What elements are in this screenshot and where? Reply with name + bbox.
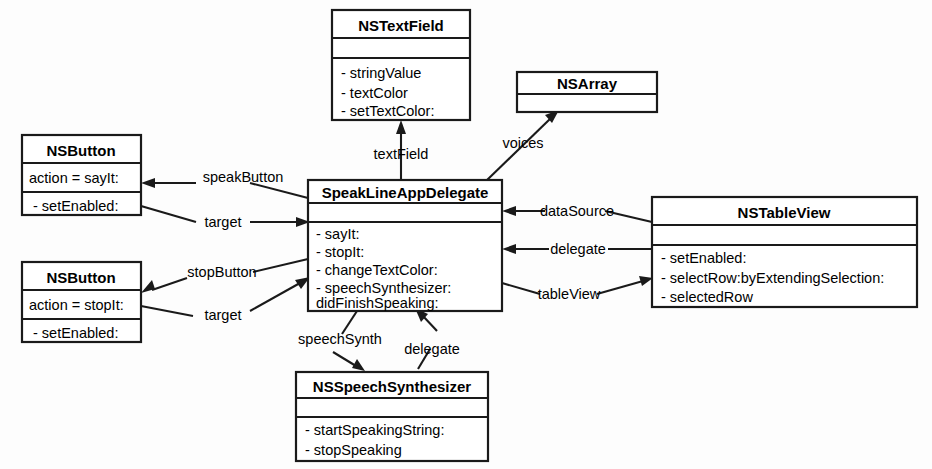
class-box-nstableview[interactable]: NSTableView - setEnabled: - selectRow:by… bbox=[652, 197, 917, 307]
connection-target-stop: target bbox=[141, 277, 310, 323]
class-box-nsbutton-stop[interactable]: NSButton action = stopIt: - setEnabled: bbox=[22, 262, 141, 342]
connection-dataSource: dataSource bbox=[502, 203, 652, 222]
class-method: - startSpeakingString: bbox=[305, 422, 444, 438]
class-diagram-canvas: textField voices speakButton target bbox=[0, 0, 932, 469]
connection-target-say: target bbox=[141, 206, 310, 230]
class-method: - speechSynthesizer: bbox=[316, 280, 451, 296]
arrowhead-icon bbox=[396, 120, 406, 134]
edge-label-speakButton: speakButton bbox=[203, 169, 284, 185]
class-title-nstableview: NSTableView bbox=[738, 204, 831, 221]
class-method: - sayIt: bbox=[316, 226, 360, 242]
class-title-nsarray: NSArray bbox=[557, 75, 618, 92]
edge-label-voices: voices bbox=[502, 135, 543, 151]
arrowhead-icon bbox=[352, 359, 365, 371]
connection-speechSynth: speechSynth bbox=[298, 311, 382, 371]
connection-stopButton: stopButton bbox=[141, 259, 308, 293]
diagram-svg: textField voices speakButton target bbox=[0, 0, 932, 469]
edge-label-target-say: target bbox=[204, 214, 241, 230]
connection-tableView: tableView bbox=[502, 276, 653, 302]
class-box-nsbutton-say[interactable]: NSButton action = sayIt: - setEnabled: bbox=[22, 135, 141, 215]
arrowhead-icon bbox=[502, 244, 516, 254]
class-title-nsbutton-stop: NSButton bbox=[46, 269, 115, 286]
class-box-nsspeechsynthesizer[interactable]: NSSpeechSynthesizer - startSpeakingStrin… bbox=[296, 372, 488, 461]
class-attribute: action = stopIt: bbox=[29, 297, 124, 313]
class-title-nsspeechsynthesizer: NSSpeechSynthesizer bbox=[313, 378, 472, 395]
connection-delegate-tableview: delegate bbox=[502, 241, 652, 257]
arrowhead-icon bbox=[502, 206, 516, 216]
edge-label-target-stop: target bbox=[204, 307, 241, 323]
class-box-delegate[interactable]: SpeakLineAppDelegate - sayIt: - stopIt: … bbox=[308, 180, 502, 311]
arrowhead-icon bbox=[141, 280, 155, 293]
class-method: didFinishSpeaking: bbox=[316, 295, 439, 311]
edge-label-dataSource: dataSource bbox=[540, 203, 614, 219]
class-method: - changeTextColor: bbox=[316, 262, 438, 278]
class-method: - setTextColor: bbox=[341, 103, 434, 119]
class-title-delegate: SpeakLineAppDelegate bbox=[322, 184, 489, 201]
class-method: - setEnabled: bbox=[33, 325, 118, 341]
class-method: - setEnabled: bbox=[661, 250, 746, 266]
edge-label-tableView: tableView bbox=[538, 286, 601, 302]
class-method: - selectRow:byExtendingSelection: bbox=[661, 270, 884, 286]
connection-textField: textField bbox=[374, 120, 429, 180]
class-box-nstextfield[interactable]: NSTextField - stringValue - textColor - … bbox=[332, 10, 470, 120]
class-method: - stringValue bbox=[341, 65, 421, 81]
class-attribute: action = sayIt: bbox=[29, 170, 119, 186]
class-box-nsarray[interactable]: NSArray bbox=[517, 72, 657, 112]
connection-voices: voices bbox=[486, 110, 559, 181]
edge-label-stopButton: stopButton bbox=[187, 264, 256, 280]
edge-label-speechSynth: speechSynth bbox=[298, 331, 382, 347]
class-method: - stopSpeaking bbox=[305, 442, 402, 458]
edge-label-delegate-speechsynth: delegate bbox=[404, 341, 460, 357]
edge-label-textField: textField bbox=[374, 146, 429, 162]
arrowhead-icon bbox=[141, 178, 155, 188]
class-method: - setEnabled: bbox=[33, 198, 118, 214]
class-method: - textColor bbox=[341, 85, 408, 101]
class-title-nstextfield: NSTextField bbox=[358, 17, 444, 34]
connection-speakButton: speakButton bbox=[141, 169, 308, 198]
class-method: - stopIt: bbox=[316, 244, 364, 260]
edge-label-delegate-tableview: delegate bbox=[550, 241, 606, 257]
class-method: - selectedRow bbox=[661, 289, 753, 305]
class-title-nsbutton-say: NSButton bbox=[46, 142, 115, 159]
connection-delegate-speechsynth: delegate bbox=[404, 308, 460, 369]
